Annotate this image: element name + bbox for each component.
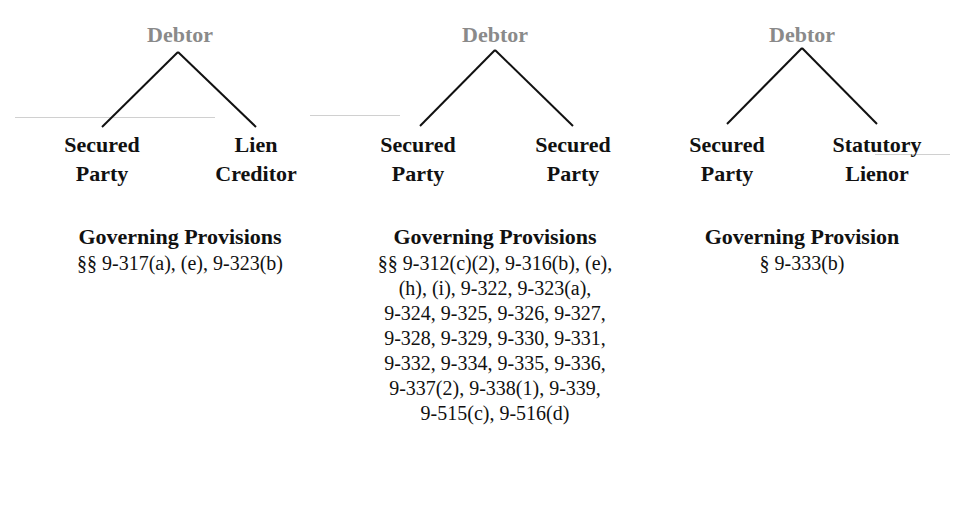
root-debtor: Debtor	[147, 22, 213, 48]
provision-line: §§ 9-317(a), (e), 9-323(b)	[77, 251, 283, 276]
governing-provisions: §§ 9-312(c)(2), 9-316(b), (e), (h), (i),…	[378, 251, 612, 426]
provision-line: § 9-333(b)	[760, 251, 845, 276]
root-debtor: Debtor	[769, 22, 835, 48]
governing-heading: Governing Provisions	[78, 224, 281, 250]
provision-line: 9-324, 9-325, 9-326, 9-327,	[378, 301, 612, 326]
left-node-secured-party: Secured Party	[689, 130, 764, 188]
governing-heading: Governing Provisions	[393, 224, 596, 250]
node-line: Secured	[64, 130, 139, 159]
branch-line	[178, 52, 256, 127]
provision-line: 9-328, 9-329, 9-330, 9-331,	[378, 326, 612, 351]
priority-diagrams: Debtor Secured Party Lien Creditor Gover…	[0, 0, 961, 509]
node-line: Party	[535, 159, 610, 188]
provision-line: (h), (i), 9-322, 9-323(a),	[378, 276, 612, 301]
governing-provisions: §§ 9-317(a), (e), 9-323(b)	[77, 251, 283, 276]
branch-line	[495, 50, 573, 126]
node-line: Party	[64, 159, 139, 188]
node-line: Lienor	[832, 159, 921, 188]
root-debtor: Debtor	[462, 22, 528, 48]
node-line: Party	[689, 159, 764, 188]
right-node-lien-creditor: Lien Creditor	[215, 130, 296, 188]
provision-line: 9-332, 9-334, 9-335, 9-336,	[378, 351, 612, 376]
provision-line: 9-515(c), 9-516(d)	[378, 401, 612, 426]
branch-line	[727, 48, 802, 124]
node-line: Party	[380, 159, 455, 188]
node-line: Secured	[689, 130, 764, 159]
governing-provisions: § 9-333(b)	[760, 251, 845, 276]
node-line: Secured	[380, 130, 455, 159]
provision-line: §§ 9-312(c)(2), 9-316(b), (e),	[378, 251, 612, 276]
right-node-secured-party: Secured Party	[535, 130, 610, 188]
left-node-secured-party: Secured Party	[64, 130, 139, 188]
branch-line	[102, 52, 178, 127]
node-line: Creditor	[215, 159, 296, 188]
node-line: Lien	[215, 130, 296, 159]
governing-heading: Governing Provision	[705, 224, 900, 250]
node-line: Secured	[535, 130, 610, 159]
right-node-statutory-lienor: Statutory Lienor	[832, 130, 921, 188]
provision-line: 9-337(2), 9-338(1), 9-339,	[378, 376, 612, 401]
node-line: Statutory	[832, 130, 921, 159]
branch-line	[802, 48, 877, 124]
left-node-secured-party: Secured Party	[380, 130, 455, 188]
branch-line	[420, 50, 495, 126]
